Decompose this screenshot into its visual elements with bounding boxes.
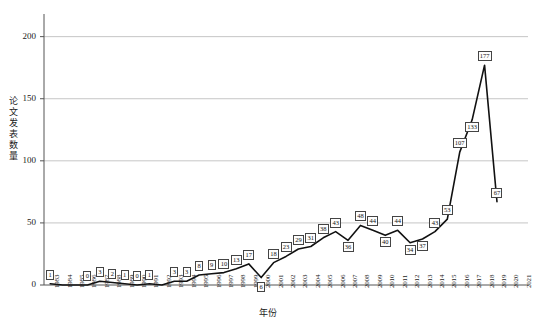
data-point-label: 44 (392, 216, 403, 226)
x-axis-tick-label: 2001 (277, 275, 285, 288)
data-point-label: 10 (218, 259, 229, 269)
x-axis-tick-label: 2020 (512, 275, 520, 288)
x-axis-tick-label: 2007 (351, 275, 359, 288)
x-axis-tick-label: 1994 (190, 275, 198, 288)
data-point-label: 1 (46, 270, 54, 280)
x-axis-tick-label: 1983 (53, 275, 61, 288)
y-axis-tick-label: 0 (10, 279, 36, 289)
data-point-label: 0 (83, 271, 91, 281)
x-axis-tick-label: 2011 (401, 275, 409, 288)
x-axis-tick-label: 2016 (463, 275, 471, 288)
x-axis-tick-label: 2018 (488, 275, 496, 288)
data-point-label: 31 (305, 233, 316, 243)
y-axis-title: 论 文 发 表 数 量 (6, 96, 20, 162)
y-axis-tick-label: 200 (10, 31, 36, 41)
data-point-label: 1 (145, 270, 153, 280)
gridlines (44, 37, 528, 223)
x-axis-tick-label: 2004 (314, 275, 322, 288)
data-point-label: 107 (453, 138, 467, 148)
data-point-label: 1 (121, 270, 129, 280)
x-axis-title: 年份 (0, 306, 535, 319)
data-point-label: 48 (355, 211, 366, 221)
data-point-label: 37 (417, 241, 428, 251)
x-axis-tick-label: 2002 (289, 275, 297, 288)
data-point-label: 8 (195, 261, 203, 271)
data-point-label: 43 (429, 218, 440, 228)
data-point-label: 3 (96, 267, 104, 277)
data-point-label: 9 (208, 260, 216, 270)
data-point-label: 6 (257, 282, 265, 292)
data-point-label: 29 (293, 235, 304, 245)
data-point-label: 67 (491, 188, 502, 198)
axis-ticks (40, 37, 44, 285)
data-point-label: 34 (405, 245, 416, 255)
data-point-label: 44 (367, 216, 378, 226)
data-point-label: 0 (133, 271, 141, 281)
x-axis-tick-label: 2019 (500, 275, 508, 288)
x-axis-tick-label: 2017 (475, 275, 483, 288)
data-point-label: 13 (231, 255, 242, 265)
x-axis-tick-label: 1995 (202, 275, 210, 288)
data-point-label: 43 (330, 218, 341, 228)
x-axis-tick-label: 2010 (388, 275, 396, 288)
x-axis-tick-label: 2000 (264, 275, 272, 288)
y-axis-title-char: 数 (6, 140, 20, 151)
y-axis-tick-label: 150 (10, 93, 36, 103)
x-axis-tick-label: 1984 (66, 275, 74, 288)
x-axis-tick-label: 2003 (301, 275, 309, 288)
data-point-label: 23 (281, 242, 292, 252)
data-point-label: 36 (343, 242, 354, 252)
x-axis-tick-label: 2013 (426, 275, 434, 288)
x-axis-tick-label: 1998 (239, 275, 247, 288)
data-point-label: 2 (108, 269, 116, 279)
y-axis-title-char: 文 (6, 107, 20, 118)
x-axis-tick-label: 1997 (227, 275, 235, 288)
x-axis-tick-label: 2008 (363, 275, 371, 288)
data-point-label: 40 (380, 237, 391, 247)
y-axis-title-char: 发 (6, 118, 20, 129)
y-axis-tick-label: 100 (10, 155, 36, 165)
x-axis-tick-label: 2006 (339, 275, 347, 288)
data-point-label: 177 (478, 51, 492, 61)
x-axis-tick-label: 1991 (152, 275, 160, 288)
data-point-label: 18 (268, 249, 279, 259)
y-axis-title-char: 表 (6, 129, 20, 140)
data-point-label: 3 (183, 267, 191, 277)
x-axis-tick-label: 1996 (215, 275, 223, 288)
y-axis-tick-label: 50 (10, 217, 36, 227)
x-axis-tick-label: 2012 (413, 275, 421, 288)
data-point-label: 53 (442, 205, 453, 215)
x-axis-tick-label: 2014 (438, 275, 446, 288)
data-point-label: 3 (170, 267, 178, 277)
data-point-label: 133 (465, 122, 479, 132)
x-axis-tick-label: 2015 (450, 275, 458, 288)
x-axis-tick-label: 2005 (326, 275, 334, 288)
chart-figure: 论 文 发 表 数 量 年份 050100150200 198319841985… (0, 0, 535, 327)
data-point-label: 17 (243, 250, 254, 260)
x-axis-tick-label: 2021 (525, 275, 533, 288)
x-axis-tick-label: 2009 (376, 275, 384, 288)
data-point-label: 38 (318, 224, 329, 234)
